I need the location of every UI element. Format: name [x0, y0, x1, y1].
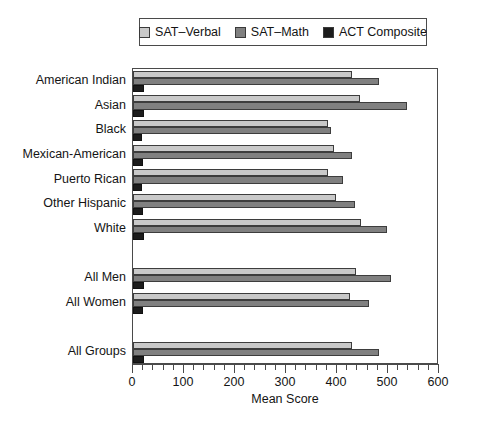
x-tick-minor: [224, 365, 225, 370]
x-tick-label: 0: [129, 376, 136, 389]
x-tick-minor: [152, 365, 153, 370]
bar-sat-verbal: [133, 342, 352, 349]
legend-swatch-sat-verbal-icon: [139, 27, 150, 38]
x-tick-minor: [275, 365, 276, 370]
bar-sat-math: [133, 275, 391, 282]
legend-swatch-sat-math-icon: [235, 27, 246, 38]
plot-area: [132, 68, 438, 364]
x-tick-label: 400: [326, 376, 347, 389]
bar-act-composite: [133, 134, 142, 141]
bar-sat-verbal: [133, 219, 361, 226]
bar-sat-verbal: [133, 145, 334, 152]
category-label: Asian: [95, 99, 126, 112]
bar-act-composite: [133, 233, 144, 240]
category-label: Mexican-American: [22, 148, 126, 161]
category-label: Black: [95, 123, 126, 136]
x-tick-label: 300: [275, 376, 296, 389]
legend-item-sat-math: SAT–Math: [235, 26, 309, 39]
bar-sat-verbal: [133, 95, 360, 102]
legend-item-act-composite: ACT Composite: [323, 26, 427, 39]
x-tick-minor: [418, 365, 419, 370]
category-label: Other Hispanic: [43, 197, 126, 210]
x-tick-minor: [428, 365, 429, 370]
x-tick-minor: [214, 365, 215, 370]
x-tick-minor: [203, 365, 204, 370]
bar-act-composite: [133, 85, 144, 92]
category-label: Puerto Rican: [54, 173, 126, 186]
bar-act-composite: [133, 282, 144, 289]
x-tick-label: 500: [377, 376, 398, 389]
bar-sat-verbal: [133, 194, 336, 201]
x-tick-major: [336, 365, 337, 373]
x-tick-minor: [356, 365, 357, 370]
x-tick-label: 200: [224, 376, 245, 389]
x-tick-minor: [163, 365, 164, 370]
x-tick-minor: [377, 365, 378, 370]
legend-label-sat-verbal: SAT–Verbal: [155, 26, 221, 39]
x-tick-minor: [316, 365, 317, 370]
bar-sat-verbal: [133, 293, 350, 300]
bar-act-composite: [133, 159, 143, 166]
x-tick-major: [285, 365, 286, 373]
x-tick-minor: [265, 365, 266, 370]
bar-sat-math: [133, 127, 331, 134]
bar-act-composite: [133, 208, 143, 215]
bar-sat-verbal: [133, 71, 352, 78]
x-tick-minor: [326, 365, 327, 370]
x-tick-minor: [173, 365, 174, 370]
x-tick-label: 100: [173, 376, 194, 389]
bar-sat-math: [133, 152, 352, 159]
bar-sat-verbal: [133, 169, 328, 176]
category-label: White: [94, 222, 126, 235]
bar-sat-math: [133, 201, 355, 208]
category-label: All Women: [66, 296, 126, 309]
x-tick-minor: [254, 365, 255, 370]
bar-sat-math: [133, 349, 379, 356]
bar-sat-math: [133, 78, 379, 85]
x-tick-label: 600: [428, 376, 449, 389]
x-tick-minor: [295, 365, 296, 370]
bar-sat-math: [133, 226, 387, 233]
x-tick-minor: [193, 365, 194, 370]
x-tick-major: [132, 365, 133, 373]
x-tick-major: [183, 365, 184, 373]
x-tick-minor: [407, 365, 408, 370]
x-tick-major: [438, 365, 439, 373]
x-tick-minor: [367, 365, 368, 370]
legend-item-sat-verbal: SAT–Verbal: [139, 26, 221, 39]
bar-act-composite: [133, 356, 144, 363]
x-tick-minor: [244, 365, 245, 370]
x-tick-minor: [346, 365, 347, 370]
bar-act-composite: [133, 110, 144, 117]
bar-sat-math: [133, 102, 407, 109]
bar-act-composite: [133, 307, 143, 314]
legend-label-act-composite: ACT Composite: [339, 26, 427, 39]
category-axis-labels: American IndianAsianBlackMexican-America…: [0, 68, 126, 364]
x-tick-minor: [142, 365, 143, 370]
legend-swatch-act-composite-icon: [323, 27, 334, 38]
category-label: All Men: [84, 271, 126, 284]
bar-sat-math: [133, 176, 343, 183]
bar-chart: SAT–Verbal SAT–Math ACT Composite Americ…: [0, 0, 484, 428]
x-tick-major: [234, 365, 235, 373]
x-tick-minor: [305, 365, 306, 370]
chart-legend: SAT–Verbal SAT–Math ACT Composite: [139, 18, 427, 46]
x-tick-major: [387, 365, 388, 373]
bar-sat-verbal: [133, 268, 356, 275]
category-label: All Groups: [68, 345, 126, 358]
bar-sat-verbal: [133, 120, 328, 127]
x-axis-title: Mean Score: [132, 392, 438, 406]
bar-sat-math: [133, 300, 369, 307]
x-tick-minor: [397, 365, 398, 370]
bar-act-composite: [133, 184, 142, 191]
legend-label-sat-math: SAT–Math: [251, 26, 309, 39]
category-label: American Indian: [36, 74, 126, 87]
